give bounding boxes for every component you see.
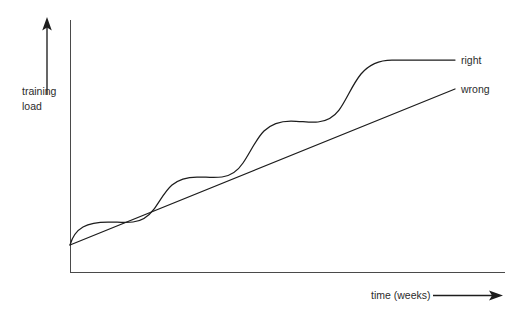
up-arrow-icon [42,17,52,95]
series-label-wrong: wrong [460,83,490,95]
y-axis-label-line2: load [22,100,42,112]
diagram-canvas: training load right wrong time (weeks) [0,0,522,311]
y-axis-label-line1: training [22,85,57,97]
right-arrow-icon [433,290,503,300]
wrong-curve [70,89,455,245]
series-label-right: right [461,54,482,66]
x-axis-label: time (weeks) [371,289,431,301]
right-curve [70,60,455,245]
training-load-diagram: training load right wrong time (weeks) [0,0,522,311]
